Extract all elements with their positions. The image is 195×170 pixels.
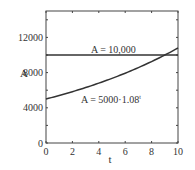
axis-ticks <box>46 11 178 143</box>
svg-text:8000: 8000 <box>23 67 43 78</box>
exponential-curve <box>46 48 178 99</box>
chart: A = 10,000 A = 5000·1.08t A t 0246810040… <box>0 0 195 170</box>
svg-text:2: 2 <box>70 146 75 157</box>
x-axis-label: t <box>108 153 111 165</box>
plot-frame <box>46 11 178 143</box>
svg-text:12000: 12000 <box>18 32 43 43</box>
svg-text:0: 0 <box>44 146 49 157</box>
svg-text:6: 6 <box>123 146 128 157</box>
svg-text:10: 10 <box>173 146 183 157</box>
svg-text:0: 0 <box>38 138 43 149</box>
curve-label: A = 5000·1.08t <box>81 94 141 105</box>
svg-text:4000: 4000 <box>23 102 43 113</box>
line-label: A = 10,000 <box>91 44 136 55</box>
svg-text:8: 8 <box>149 146 154 157</box>
svg-text:4: 4 <box>96 146 101 157</box>
